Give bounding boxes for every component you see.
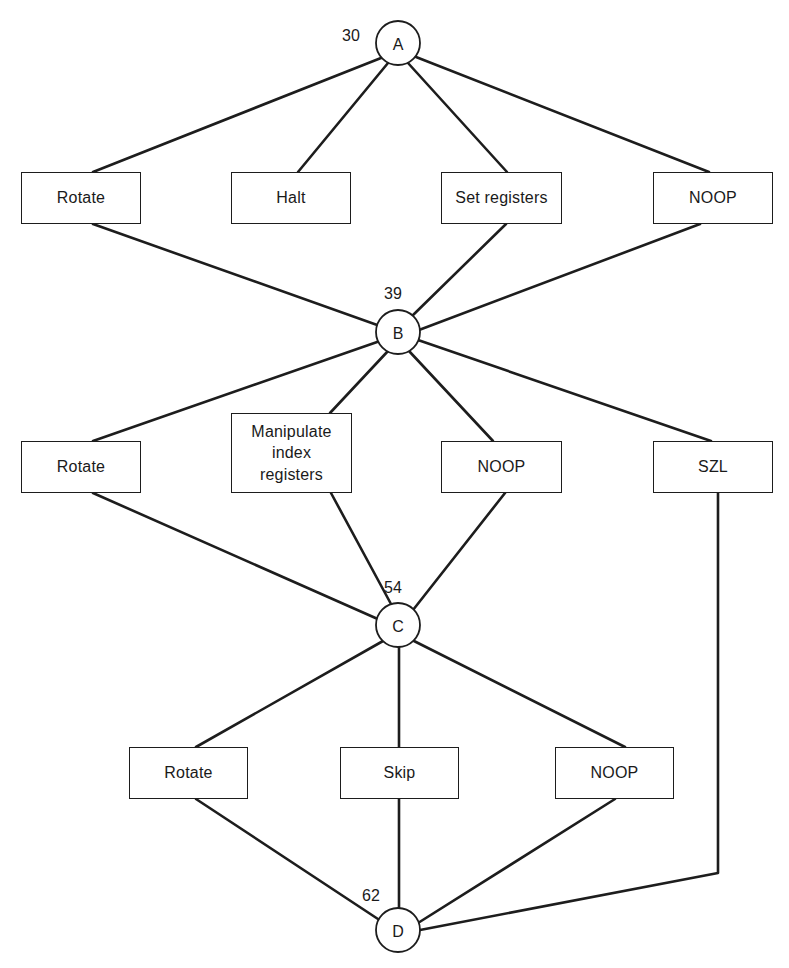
- edge-b-to-noop-2: [409, 351, 493, 441]
- op-box-szl-2[interactable]: SZL: [653, 441, 773, 493]
- edge-a-to-noop-1: [416, 57, 709, 172]
- node-weight-b: 39: [384, 285, 402, 302]
- edge-a-to-halt-1: [298, 63, 388, 172]
- op-box-rotate-2[interactable]: Rotate: [21, 441, 141, 493]
- op-box-label: Halt: [270, 187, 311, 208]
- edge-b-to-manipulate-2: [330, 351, 388, 413]
- op-box-halt-1[interactable]: Halt: [231, 172, 351, 224]
- edge-b-to-szl-2: [418, 340, 711, 441]
- edge-c-to-rotate-3: [196, 641, 383, 747]
- op-box-noop-3[interactable]: NOOP: [555, 747, 674, 799]
- op-box-label: Manipulate index registers: [245, 421, 337, 484]
- edge-szl-2-to-d: [420, 493, 718, 930]
- op-box-label: Rotate: [51, 187, 111, 208]
- op-box-label: NOOP: [683, 187, 743, 208]
- edges-group: [93, 57, 718, 930]
- node-d[interactable]: D62: [362, 887, 420, 953]
- node-weight-d: 62: [362, 887, 380, 904]
- node-label-b: B: [393, 325, 404, 342]
- op-box-noop-1[interactable]: NOOP: [653, 172, 773, 224]
- op-box-set-registers-1[interactable]: Set registers: [441, 172, 562, 224]
- op-box-label: Rotate: [51, 456, 111, 477]
- node-b[interactable]: B39: [376, 285, 420, 355]
- node-weight-c: 54: [384, 579, 402, 596]
- op-box-label: NOOP: [585, 762, 645, 783]
- nodes-group: A30B39C54D62: [342, 21, 420, 952]
- op-box-rotate-1[interactable]: Rotate: [21, 172, 141, 224]
- op-box-skip-3[interactable]: Skip: [340, 747, 459, 799]
- node-label-d: D: [392, 923, 404, 940]
- edge-rotate-2-to-c: [93, 493, 380, 620]
- op-box-label: Rotate: [158, 762, 218, 783]
- edge-manipulate-2-to-c: [331, 493, 391, 604]
- edge-rotate-3-to-d: [196, 799, 381, 921]
- op-box-label: Set registers: [449, 187, 553, 208]
- op-box-manipulate-index-registers-2[interactable]: Manipulate index registers: [231, 413, 352, 493]
- op-box-label: Skip: [378, 762, 422, 783]
- op-box-label: NOOP: [472, 456, 532, 477]
- edge-noop-2-to-c: [413, 493, 505, 610]
- node-label-a: A: [393, 36, 404, 53]
- op-box-label: SZL: [692, 456, 734, 477]
- edge-a-to-set-registers-1: [408, 63, 507, 172]
- node-weight-a: 30: [342, 27, 360, 44]
- edge-c-to-noop-3: [414, 641, 625, 747]
- edge-a-to-rotate-1: [93, 58, 381, 172]
- edge-noop-1-to-b: [419, 224, 700, 330]
- op-box-rotate-3[interactable]: Rotate: [129, 747, 248, 799]
- instruction-decode-diagram: A30B39C54D62 RotateHaltSet registersNOOP…: [0, 0, 789, 968]
- op-box-noop-2[interactable]: NOOP: [441, 441, 562, 493]
- edge-noop-3-to-d: [418, 799, 615, 923]
- edge-rotate-1-to-b: [93, 224, 380, 326]
- node-label-c: C: [392, 618, 404, 635]
